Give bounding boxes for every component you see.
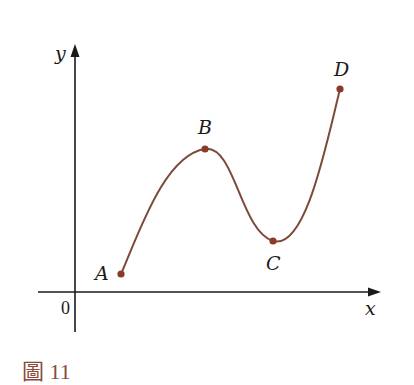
y-axis-label: y: [54, 42, 66, 64]
point-b-label: B: [197, 116, 212, 138]
caption-number: 11: [50, 359, 71, 384]
y-axis-arrow-icon: [71, 44, 80, 57]
origin-label: 0: [61, 298, 70, 318]
x-axis-arrow-icon: [368, 288, 381, 297]
point-d: [336, 85, 343, 92]
x-axis-label: x: [365, 297, 376, 319]
point-d-label: D: [333, 58, 349, 80]
point-b: [201, 145, 208, 152]
function-curve: [121, 89, 340, 274]
point-a: [117, 270, 124, 277]
point-c: [269, 237, 276, 244]
figure-caption: 圖 11: [22, 353, 71, 385]
point-c-label: C: [266, 252, 281, 274]
point-a-label: A: [93, 262, 109, 284]
caption-prefix: 圖: [22, 359, 44, 384]
